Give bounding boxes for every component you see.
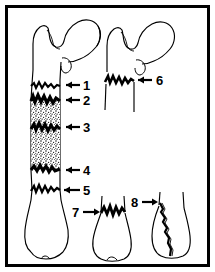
arrow-5 — [64, 187, 80, 194]
arrow-3 — [66, 124, 80, 131]
label-arrows — [64, 77, 158, 216]
label-4: 4 — [83, 164, 90, 177]
arrow-8 — [142, 199, 158, 206]
arrow-2 — [66, 97, 80, 104]
label-3: 3 — [83, 121, 90, 134]
comminuted-zone-stipple — [31, 100, 60, 170]
label-6: 6 — [156, 74, 163, 87]
arrow-7 — [83, 209, 100, 216]
shaft-medial-stump-right — [105, 84, 106, 110]
lesser-trochanter-left — [61, 58, 71, 73]
left-femur-whole — [25, 20, 101, 259]
distal-condyles-left — [31, 252, 63, 259]
intercondylar-notch-center — [107, 257, 117, 260]
label-1: 1 — [83, 79, 90, 92]
right-proximal-femur — [105, 22, 174, 112]
proximal-femur-outline-left — [33, 20, 100, 70]
bone-illustration — [0, 0, 215, 272]
fracture-line-8 — [160, 203, 171, 256]
label-8: 8 — [131, 196, 138, 209]
arrow-4 — [66, 167, 80, 174]
fracture-line-1 — [31, 82, 60, 88]
shaft-lateral-cortex-left — [60, 62, 68, 252]
lesser-trochanter-right — [135, 60, 145, 75]
arrow-6 — [138, 77, 152, 84]
arrow-1 — [66, 82, 80, 89]
label-7: 7 — [72, 206, 79, 219]
distal-condyles-center — [93, 213, 131, 261]
fracture-line-5 — [31, 185, 60, 192]
label-2: 2 — [83, 94, 90, 107]
fracture-line-7 — [101, 206, 125, 215]
distal-shaft-lateral-right — [183, 192, 184, 208]
femoral-head-left — [97, 26, 100, 46]
label-5: 5 — [83, 184, 90, 197]
figure-container: 1 2 3 4 5 6 7 8 — [0, 0, 215, 272]
center-distal-femur — [93, 196, 131, 261]
distal-shaft-medial-right — [159, 192, 160, 205]
fracture-line-6 — [105, 76, 134, 84]
proximal-femur-outline-right — [107, 22, 174, 72]
